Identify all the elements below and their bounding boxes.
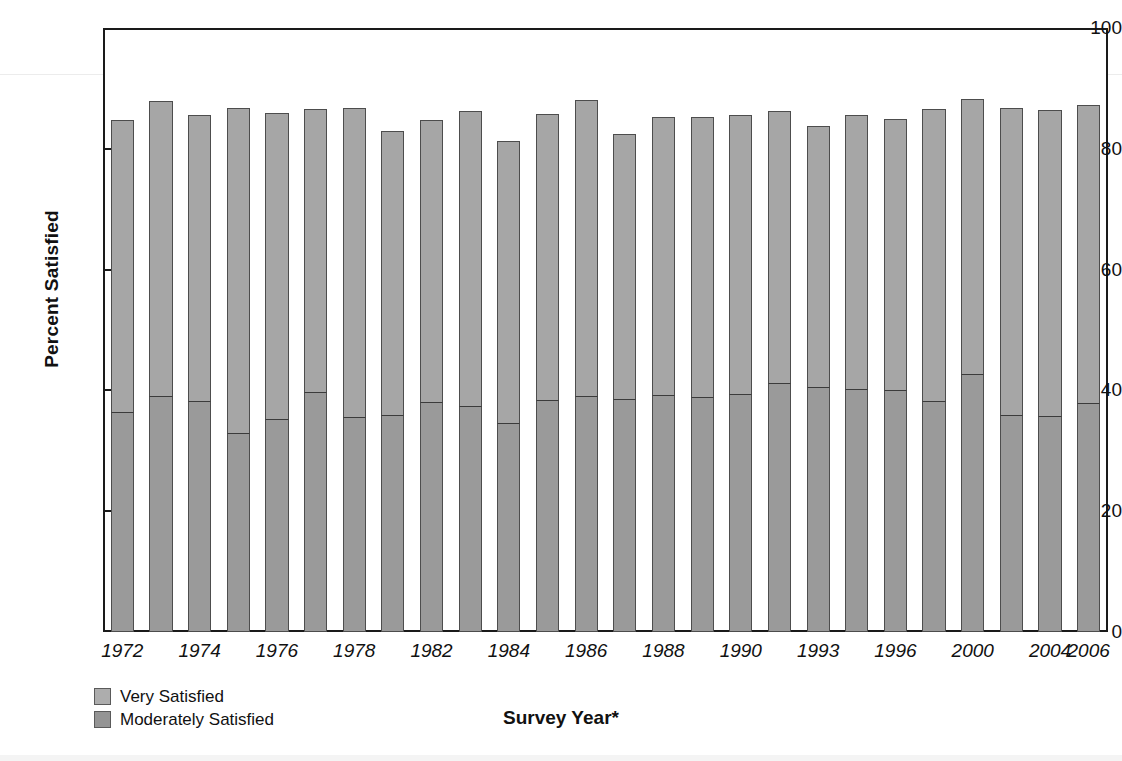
bar-segment-moderately-satisfied bbox=[188, 401, 211, 632]
bar-segment-moderately-satisfied bbox=[613, 399, 636, 632]
bar-segment-moderately-satisfied bbox=[304, 392, 327, 632]
bar-segment-moderately-satisfied bbox=[884, 390, 907, 632]
bar-1984 bbox=[497, 141, 520, 632]
bar-1998 bbox=[922, 109, 945, 632]
bar-segment-moderately-satisfied bbox=[768, 383, 791, 632]
bar-1994 bbox=[845, 115, 868, 632]
bar-1975 bbox=[227, 108, 250, 632]
bar-series-group bbox=[103, 28, 1108, 632]
x-tick-label-1990: 1990 bbox=[720, 640, 762, 662]
bar-segment-moderately-satisfied bbox=[691, 397, 714, 632]
bar-segment-moderately-satisfied bbox=[420, 402, 443, 632]
x-tick-label-2000: 2000 bbox=[952, 640, 994, 662]
bar-segment-moderately-satisfied bbox=[652, 395, 675, 632]
bar-1996 bbox=[884, 119, 907, 632]
bar-segment-moderately-satisfied bbox=[381, 415, 404, 632]
legend-item-very: Very Satisfied bbox=[94, 686, 274, 707]
bar-2004 bbox=[1038, 110, 1061, 632]
bar-segment-moderately-satisfied bbox=[961, 374, 984, 633]
bar-segment-moderately-satisfied bbox=[807, 387, 830, 632]
bar-1973 bbox=[149, 101, 172, 632]
bar-1972 bbox=[111, 120, 134, 632]
legend-label: Very Satisfied bbox=[120, 687, 224, 707]
bar-segment-moderately-satisfied bbox=[1038, 416, 1061, 632]
x-tick-label-1993: 1993 bbox=[797, 640, 839, 662]
bar-segment-moderately-satisfied bbox=[922, 401, 945, 632]
bar-1977 bbox=[304, 109, 327, 632]
bar-1976 bbox=[265, 113, 288, 632]
bar-1988 bbox=[652, 117, 675, 632]
x-tick-label-1974: 1974 bbox=[178, 640, 220, 662]
x-tick-label-1978: 1978 bbox=[333, 640, 375, 662]
x-tick-label-1984: 1984 bbox=[488, 640, 530, 662]
x-axis-title: Survey Year* bbox=[0, 707, 1122, 729]
bar-1980 bbox=[381, 131, 404, 632]
bar-1983 bbox=[459, 111, 482, 632]
bar-1974 bbox=[188, 115, 211, 632]
bar-1991 bbox=[768, 111, 791, 632]
x-tick-label-1976: 1976 bbox=[256, 640, 298, 662]
x-tick-label-2006: 2006 bbox=[1068, 640, 1110, 662]
bar-1978 bbox=[343, 108, 366, 632]
bar-1993 bbox=[807, 126, 830, 632]
x-tick-label-1972: 1972 bbox=[101, 640, 143, 662]
scan-artifact bbox=[0, 755, 1122, 761]
x-tick-label-2004: 2004 bbox=[1029, 640, 1071, 662]
bar-segment-moderately-satisfied bbox=[536, 400, 559, 632]
bar-1990 bbox=[729, 115, 752, 632]
bar-segment-moderately-satisfied bbox=[227, 433, 250, 632]
bar-2002 bbox=[1000, 108, 1023, 632]
bar-1982 bbox=[420, 120, 443, 632]
x-tick-label-1988: 1988 bbox=[642, 640, 684, 662]
bar-1985 bbox=[536, 114, 559, 632]
bar-segment-moderately-satisfied bbox=[343, 417, 366, 632]
bar-segment-moderately-satisfied bbox=[729, 394, 752, 632]
bar-segment-moderately-satisfied bbox=[1077, 403, 1100, 632]
bar-1989 bbox=[691, 117, 714, 632]
bar-segment-moderately-satisfied bbox=[575, 396, 598, 632]
bar-1987 bbox=[613, 134, 636, 632]
bar-1986 bbox=[575, 100, 598, 632]
bar-segment-moderately-satisfied bbox=[265, 419, 288, 632]
bar-segment-moderately-satisfied bbox=[497, 423, 520, 632]
bar-segment-moderately-satisfied bbox=[111, 412, 134, 632]
bar-segment-moderately-satisfied bbox=[149, 396, 172, 632]
bar-segment-moderately-satisfied bbox=[1000, 415, 1023, 632]
chart-figure: Percent Satisfied 100806040200 197219741… bbox=[0, 0, 1122, 761]
x-tick-label-1986: 1986 bbox=[565, 640, 607, 662]
y-axis-title: Percent Satisfied bbox=[41, 179, 63, 399]
bar-2006 bbox=[1077, 105, 1100, 632]
bar-segment-moderately-satisfied bbox=[845, 389, 868, 632]
x-tick-label-1996: 1996 bbox=[874, 640, 916, 662]
bar-segment-moderately-satisfied bbox=[459, 406, 482, 633]
bar-2000 bbox=[961, 99, 984, 632]
x-tick-label-1982: 1982 bbox=[410, 640, 452, 662]
legend-swatch-icon-very bbox=[94, 688, 111, 705]
